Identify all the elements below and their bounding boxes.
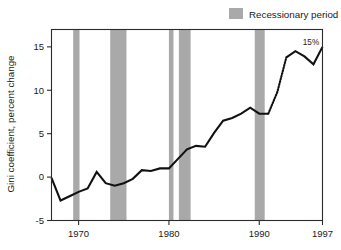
y-tick-label-15: 15 bbox=[33, 41, 44, 52]
y-tick-label-10: 10 bbox=[33, 85, 44, 96]
gini-coefficient-line-chart: -5051015 1970198019901997 Gini coefficie… bbox=[0, 0, 341, 250]
chart-figure: -5051015 1970198019901997 Gini coefficie… bbox=[0, 0, 341, 250]
y-tick-label--5: -5 bbox=[36, 215, 44, 226]
recession-band-3 bbox=[169, 30, 174, 221]
legend-swatch-recessionary-period bbox=[229, 8, 243, 19]
chart-annotations: 15% bbox=[303, 38, 319, 47]
y-tick-label-5: 5 bbox=[39, 128, 44, 139]
x-tick-label-1970: 1970 bbox=[68, 228, 89, 239]
y-axis-title: Gini coefficient, percent change bbox=[5, 55, 16, 193]
x-tick-label-1990: 1990 bbox=[249, 228, 270, 239]
recession-band-4 bbox=[179, 30, 191, 221]
legend-label-recessionary-period: Recessionary period bbox=[249, 9, 338, 20]
annotation-endpoint-value: 15% bbox=[303, 38, 319, 47]
x-tick-label-1997: 1997 bbox=[312, 228, 333, 239]
x-tick-label-1980: 1980 bbox=[158, 228, 179, 239]
recession-band-2 bbox=[110, 30, 126, 221]
y-tick-label-0: 0 bbox=[39, 171, 44, 182]
recession-band-5 bbox=[255, 30, 265, 221]
